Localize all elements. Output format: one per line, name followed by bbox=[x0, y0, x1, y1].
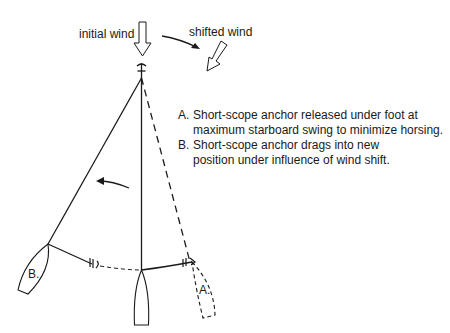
initial-wind-label: initial wind bbox=[79, 27, 134, 41]
swing-direction-arrow-icon bbox=[96, 177, 129, 188]
note-b-key: B. bbox=[178, 138, 193, 168]
short-scope-lines bbox=[48, 244, 192, 270]
legend-notes: A. Short-scope anchor released under foo… bbox=[178, 108, 443, 168]
initial-wind-arrow-icon bbox=[134, 22, 151, 56]
rode-lines bbox=[48, 78, 190, 270]
note-a-key: A. bbox=[178, 108, 193, 138]
center-boat-icon bbox=[134, 270, 148, 325]
note-b: B. Short-scope anchor drags into new pos… bbox=[178, 138, 443, 168]
anchor-icon bbox=[137, 63, 146, 78]
rode-to-boat-b bbox=[48, 78, 142, 244]
shifted-wind-arrow-icon bbox=[207, 41, 227, 71]
note-a-text: Short-scope anchor released under foot a… bbox=[193, 108, 443, 138]
note-a: A. Short-scope anchor released under foo… bbox=[178, 108, 443, 138]
boat-b-label: B. bbox=[28, 268, 39, 280]
shifted-wind-label: shifted wind bbox=[189, 25, 252, 39]
rode-to-boat-a bbox=[142, 78, 191, 262]
boat-a-label: A. bbox=[199, 284, 210, 296]
note-b-text: Short-scope anchor drags into new positi… bbox=[193, 138, 390, 168]
